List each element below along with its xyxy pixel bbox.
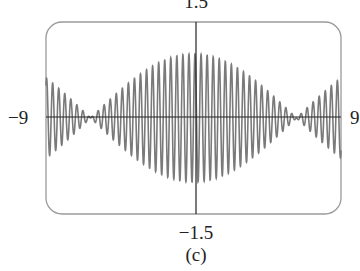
- y-max-tick-label: 1.5: [184, 0, 208, 11]
- figure-caption: (c): [185, 245, 206, 264]
- x-max-tick-label: 9: [350, 108, 360, 127]
- y-min-tick-label: −1.5: [179, 223, 213, 242]
- x-min-tick-label: −9: [8, 108, 28, 127]
- oscillation-curve: [46, 54, 341, 182]
